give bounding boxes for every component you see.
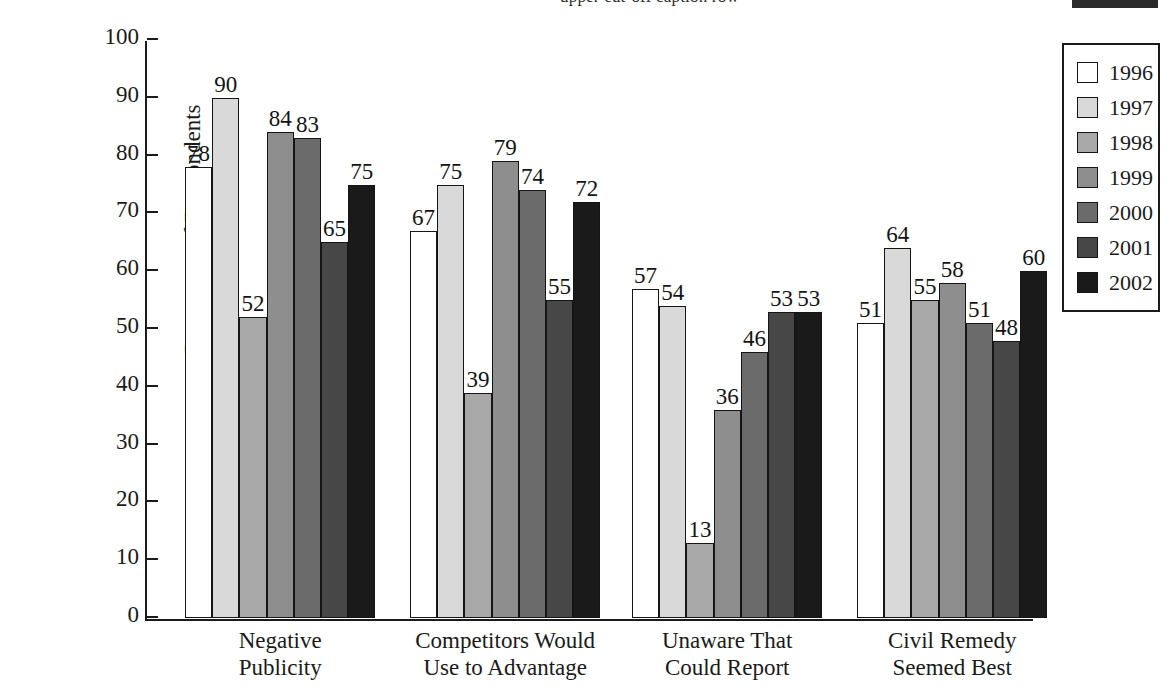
bar-value-label: 13 xyxy=(688,518,711,542)
legend-item-label: 1997 xyxy=(1109,97,1153,119)
bar-value-label: 74 xyxy=(521,165,544,189)
bar-1996-group-4: 51 xyxy=(857,323,884,618)
bar-value-label: 54 xyxy=(661,281,684,305)
y-tick-label-0: 0 xyxy=(128,603,140,626)
bar-value-label: 75 xyxy=(350,160,373,184)
y-tick-70: 70 xyxy=(147,211,158,213)
bar-2002-group-3: 53 xyxy=(795,312,822,618)
y-tick-label-70: 70 xyxy=(116,198,139,221)
bar-value-label: 55 xyxy=(913,275,936,299)
legend-swatch-icon xyxy=(1077,132,1098,153)
bar-value-label: 90 xyxy=(214,73,237,97)
bar-value-label: 51 xyxy=(968,298,991,322)
y-tick-label-90: 90 xyxy=(116,83,139,106)
legend-item-label: 2002 xyxy=(1109,272,1153,294)
bar-group-3: 57541336465353 xyxy=(632,39,822,618)
bar-1998-group-2: 39 xyxy=(464,393,491,618)
bar-1997-group-4: 64 xyxy=(884,248,911,618)
legend-swatch-icon xyxy=(1077,237,1098,258)
bar-value-label: 36 xyxy=(716,385,739,409)
legend-item-1998[interactable]: 1998 xyxy=(1064,125,1158,160)
y-tick-60: 60 xyxy=(147,269,158,271)
y-tick-label-60: 60 xyxy=(116,256,139,279)
y-tick-label-30: 30 xyxy=(116,430,139,453)
bar-1999-group-2: 79 xyxy=(492,161,519,618)
bar-value-label: 64 xyxy=(886,223,909,247)
plot-area: 0102030405060708090100 Percentage of Res… xyxy=(145,41,1031,620)
y-tick-label-40: 40 xyxy=(116,372,139,395)
category-label-line: Civil Remedy xyxy=(802,627,1102,654)
bar-2001-group-3: 53 xyxy=(768,312,795,618)
legend-swatch-icon xyxy=(1077,62,1098,83)
bar-value-label: 55 xyxy=(548,275,571,299)
y-tick-30: 30 xyxy=(147,443,158,445)
bar-1997-group-1: 90 xyxy=(212,98,239,618)
bar-value-label: 46 xyxy=(743,327,766,351)
y-tick-label-50: 50 xyxy=(116,314,139,337)
y-tick-0: 0 xyxy=(147,616,158,618)
bar-value-label: 75 xyxy=(439,160,462,184)
bar-2001-group-4: 48 xyxy=(993,341,1020,618)
legend-item-1997[interactable]: 1997 xyxy=(1064,90,1158,125)
legend-item-label: 1999 xyxy=(1109,167,1153,189)
legend-swatch-icon xyxy=(1077,202,1098,223)
y-tick-10: 10 xyxy=(147,558,158,560)
legend-item-2000[interactable]: 2000 xyxy=(1064,195,1158,230)
legend-swatch-icon xyxy=(1077,272,1098,293)
bar-1996-group-1: 78 xyxy=(185,167,212,618)
top-clipped-caption: upper cut-off caption row xyxy=(0,0,1171,9)
legend-item-label: 2001 xyxy=(1109,237,1153,259)
bar-1998-group-3: 13 xyxy=(686,543,713,618)
y-tick-label-20: 20 xyxy=(116,487,139,510)
bar-value-label: 67 xyxy=(412,206,435,230)
bar-value-label: 57 xyxy=(634,264,657,288)
bar-value-label: 65 xyxy=(323,217,346,241)
legend-item-2002[interactable]: 2002 xyxy=(1064,265,1158,300)
bar-value-label: 51 xyxy=(859,298,882,322)
legend-item-2001[interactable]: 2001 xyxy=(1064,230,1158,265)
bar-1999-group-3: 36 xyxy=(714,410,741,618)
y-tick-label-100: 100 xyxy=(105,25,140,48)
bar-2002-group-1: 75 xyxy=(348,185,375,619)
bar-2001-group-2: 55 xyxy=(546,300,573,618)
bar-value-label: 78 xyxy=(187,142,210,166)
legend-item-1996[interactable]: 1996 xyxy=(1064,55,1158,90)
bar-1998-group-1: 52 xyxy=(239,317,266,618)
y-tick-100: 100 xyxy=(147,38,158,40)
legend-item-label: 1998 xyxy=(1109,132,1153,154)
bar-value-label: 83 xyxy=(296,113,319,137)
legend: 1996199719981999200020012002 xyxy=(1062,43,1160,312)
legend-swatch-icon xyxy=(1077,97,1098,118)
bar-value-label: 39 xyxy=(466,368,489,392)
bar-1997-group-2: 75 xyxy=(437,185,464,619)
legend-swatch-icon xyxy=(1077,167,1098,188)
y-tick-90: 90 xyxy=(147,96,158,98)
x-axis-line xyxy=(145,619,1033,621)
y-tick-50: 50 xyxy=(147,327,158,329)
legend-item-label: 1996 xyxy=(1109,62,1153,84)
y-axis-line xyxy=(145,41,147,621)
bar-2002-group-2: 72 xyxy=(573,202,600,618)
bar-1999-group-1: 84 xyxy=(267,132,294,618)
bar-value-label: 58 xyxy=(941,258,964,282)
bar-value-label: 52 xyxy=(241,292,264,316)
top-clipped-caption-text: upper cut-off caption row xyxy=(560,0,739,7)
bar-2000-group-2: 74 xyxy=(519,190,546,618)
bar-group-1: 78905284836575 xyxy=(185,39,375,618)
y-tick-label-80: 80 xyxy=(116,141,139,164)
bar-value-label: 79 xyxy=(494,136,517,160)
bar-1996-group-3: 57 xyxy=(632,289,659,618)
bar-group-4: 51645558514860 xyxy=(857,39,1047,618)
bar-value-label: 60 xyxy=(1022,246,1045,270)
bar-2002-group-4: 60 xyxy=(1020,271,1047,618)
category-label-4: Civil RemedySeemed Best xyxy=(802,627,1102,681)
bar-1996-group-2: 67 xyxy=(410,231,437,618)
bar-2000-group-4: 51 xyxy=(966,323,993,618)
bar-value-label: 84 xyxy=(269,107,292,131)
y-tick-80: 80 xyxy=(147,154,158,156)
category-label-line: Seemed Best xyxy=(802,654,1102,681)
bar-2001-group-1: 65 xyxy=(321,242,348,618)
top-clipped-black-block xyxy=(1072,0,1158,8)
bar-1999-group-4: 58 xyxy=(939,283,966,618)
legend-item-1999[interactable]: 1999 xyxy=(1064,160,1158,195)
